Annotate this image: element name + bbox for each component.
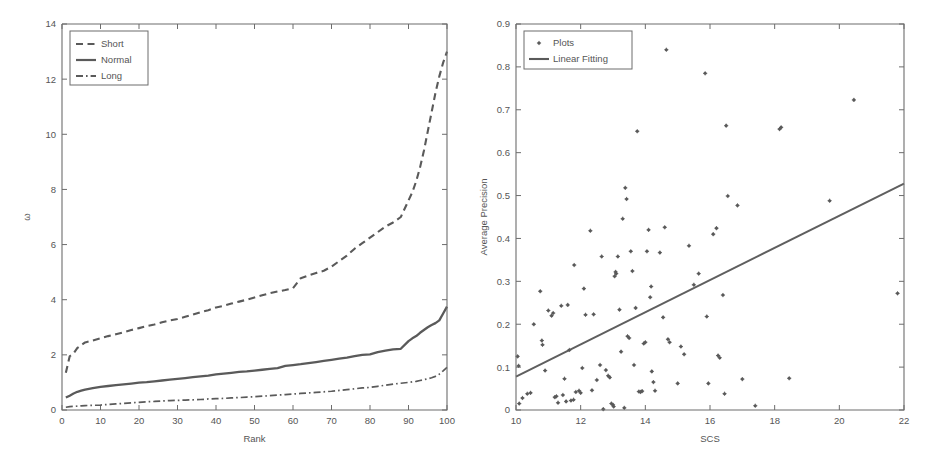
scatter-point [634, 306, 638, 310]
x-tick-label: 0 [59, 415, 64, 426]
x-tick-label: 60 [288, 415, 299, 426]
scatter-point [649, 284, 653, 288]
y-tick-label: 0.6 [497, 147, 510, 158]
series-line-long [66, 367, 447, 407]
x-tick-label: 16 [705, 415, 716, 426]
scatter-point [679, 344, 683, 348]
scatter-point [564, 399, 568, 403]
x-tick-label: 12 [575, 415, 586, 426]
legend-label-short[interactable]: Short [101, 38, 124, 49]
scatter-point [559, 304, 563, 308]
scatter-point [697, 272, 701, 276]
scatter-point [556, 401, 560, 405]
x-tick-label: 40 [211, 415, 222, 426]
legend-label-linear-fitting[interactable]: Linear Fitting [553, 53, 608, 64]
scatter-point [650, 369, 654, 373]
x-tick-label: 18 [769, 415, 780, 426]
x-axis-title-rank: Rank [243, 433, 265, 444]
linear-fitting-line [516, 184, 904, 377]
scatter-point [714, 226, 718, 230]
scatter-point [601, 407, 605, 411]
scatter-point [546, 308, 550, 312]
x-tick-label: 50 [249, 415, 260, 426]
x-tick-label: 80 [365, 415, 376, 426]
y-tick-label: 8 [51, 184, 56, 195]
scatter-point [651, 380, 655, 384]
scatter-point [520, 396, 524, 400]
scatter-point [604, 368, 608, 372]
scatter-point [724, 124, 728, 128]
x-tick-label: 22 [899, 415, 910, 426]
scatter-point [630, 269, 634, 273]
scatter-point [632, 363, 636, 367]
scatter-point [617, 308, 621, 312]
scatter-point [619, 350, 623, 354]
scatter-point [538, 289, 542, 293]
legend-label-plots[interactable]: Plots [553, 37, 574, 48]
scatter-point [687, 244, 691, 248]
scatter-point [525, 392, 529, 396]
legend-left[interactable]: ShortNormalLong [70, 31, 148, 85]
legend-right[interactable]: PlotsLinear Fitting [524, 31, 632, 69]
scatter-point [623, 186, 627, 190]
x-tick-label: 20 [834, 415, 845, 426]
scatter-point [661, 315, 665, 319]
scatter-points-group [516, 48, 900, 412]
x-tick-label: 10 [95, 415, 106, 426]
x-tick-label: 70 [326, 415, 337, 426]
x-tick-label: 20 [134, 415, 145, 426]
right-plot-frame [516, 24, 904, 410]
y-tick-label: 0.9 [497, 18, 510, 29]
scatter-point [653, 389, 657, 393]
y-tick-label: 0.8 [497, 61, 510, 72]
legend-label-normal[interactable]: Normal [101, 54, 132, 65]
y-tick-label: 0.2 [497, 319, 510, 330]
scatter-point [706, 381, 710, 385]
right-axis-ticks [516, 24, 904, 410]
legend-label-long[interactable]: Long [101, 70, 122, 81]
line-chart-rank-omega: 010203040506070809010002468101214 Rank ω… [0, 0, 473, 454]
scatter-point [682, 352, 686, 356]
scatter-point [540, 343, 544, 347]
scatter-point [600, 254, 604, 258]
scatter-point [645, 249, 649, 253]
y-tick-label: 4 [51, 294, 56, 305]
figure-root: 010203040506070809010002468101214 Rank ω… [0, 0, 946, 454]
scatter-point [566, 303, 570, 307]
scatter-point [705, 314, 709, 318]
x-tick-label: 30 [172, 415, 183, 426]
y-tick-label: 2 [51, 349, 56, 360]
scatter-point [648, 295, 652, 299]
series-line-short [66, 52, 447, 373]
scatter-point [562, 377, 566, 381]
scatter-point [735, 203, 739, 207]
scatter-point [580, 366, 584, 370]
scatter-point [590, 388, 594, 392]
scatter-point [703, 71, 707, 75]
scatter-point [663, 225, 667, 229]
scatter-point [517, 401, 521, 405]
y-tick-label: 0 [505, 404, 510, 415]
y-tick-label: 0.5 [497, 190, 510, 201]
scatter-point [616, 254, 620, 258]
scatter-point [543, 368, 547, 372]
y-axis-title-average-precision: Average Precision [478, 179, 489, 256]
scatter-point [622, 406, 626, 410]
scatter-point [635, 129, 639, 133]
scatter-point [621, 217, 625, 221]
scatter-point [624, 197, 628, 201]
scatter-point [711, 232, 715, 236]
y-tick-label: 10 [45, 129, 56, 140]
scatter-chart-scs-precision: 1012141618202200.10.20.30.40.50.60.70.80… [473, 0, 946, 454]
scatter-point [895, 291, 899, 295]
scatter-point [692, 283, 696, 287]
scatter-point [646, 228, 650, 232]
scatter-point [598, 363, 602, 367]
left-series-group [66, 52, 447, 408]
scatter-point [588, 229, 592, 233]
scatter-point [582, 287, 586, 291]
scatter-point [583, 313, 587, 317]
y-tick-label: 0.1 [497, 362, 510, 373]
panel-rank-omega: 010203040506070809010002468101214 Rank ω… [0, 0, 473, 454]
panel-scs-precision: 1012141618202200.10.20.30.40.50.60.70.80… [473, 0, 946, 454]
